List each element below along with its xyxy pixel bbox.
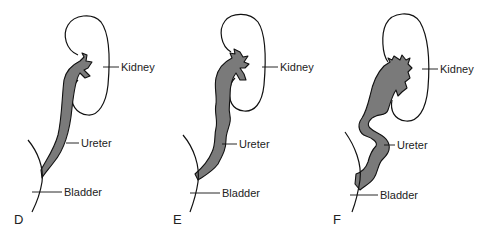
panel-label: F [333,212,341,227]
panel-d: Kidney Ureter Bladder D [14,16,155,227]
panel-label: D [14,212,23,227]
ureter [41,53,92,178]
bladder-label: Bladder [222,187,260,199]
hydroureter-figure: Kidney Ureter Bladder D Kidney Ureter Bl… [0,0,487,234]
kidney-label: Kidney [280,61,314,73]
ureter-label: Ureter [81,137,112,149]
panel-e: Kidney Ureter Bladder E [173,14,314,227]
bladder-label: Bladder [64,186,102,198]
bladder-outline [28,140,42,212]
ureter-label: Ureter [397,139,428,151]
kidney-label: Kidney [440,63,474,75]
bladder-label: Bladder [380,189,418,201]
panel-label: E [173,212,182,227]
panel-f: Kidney Ureter Bladder F [333,14,474,227]
bladder-outline [345,132,360,212]
ureter [355,55,412,190]
kidney-label: Kidney [121,61,155,73]
ureter [195,49,249,180]
ureter-label: Ureter [239,138,270,150]
